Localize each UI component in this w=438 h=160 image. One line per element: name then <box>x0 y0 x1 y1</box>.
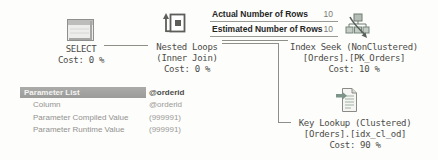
result-window-icon[interactable] <box>66 18 95 47</box>
nested-loops-cost: Cost: 0 % <box>137 64 237 75</box>
key-lookup-cost: Cost: 90 % <box>285 140 425 151</box>
index-seek-name: Index Seek (NonClustered) <box>284 42 424 53</box>
key-lookup-name: Key Lookup (Clustered) <box>285 118 425 129</box>
tooltip-separator <box>210 36 338 37</box>
tooltip-row-value: 10 <box>303 8 333 20</box>
parameter-row-label: Column <box>33 99 61 110</box>
tooltip-row-label: Actual Number of Rows <box>212 8 308 20</box>
edge-nestedloops-indexseek <box>222 40 288 41</box>
tooltip-row-value: 10 <box>303 23 333 35</box>
nested-loops-subtype: (Inner Join) <box>137 53 237 64</box>
parameter-row-value: (999991) <box>149 124 181 135</box>
parameter-list-header-value: @orderid <box>149 87 184 98</box>
index-seek-node[interactable]: Index Seek (NonClustered) [Orders].[PK_O… <box>284 42 424 75</box>
parameter-list-header-label: Parameter List <box>24 87 80 98</box>
nested-loops-node[interactable]: Nested Loops (Inner Join) Cost: 0 % <box>137 42 237 75</box>
select-node-cost: Cost: 0 % <box>40 55 122 66</box>
index-seek-cost: Cost: 10 % <box>284 64 424 75</box>
execution-plan-canvas: SELECT Cost: 0 % Nested Loops (Inner Joi… <box>0 0 438 160</box>
nested-loops-icon[interactable] <box>162 11 188 41</box>
key-lookup-node[interactable]: Key Lookup (Clustered) [Orders].[idx_cl_… <box>285 118 425 151</box>
key-lookup-icon[interactable] <box>336 86 360 119</box>
key-lookup-object: [Orders].[idx_cl_od] <box>285 129 425 140</box>
edge-nestedloops-keylookup-v <box>278 43 279 122</box>
parameter-row-value: @orderid <box>149 99 182 110</box>
index-seek-object: [Orders].[PK_Orders] <box>284 53 424 64</box>
select-node[interactable]: SELECT Cost: 0 % <box>40 44 122 66</box>
parameter-row-label: Parameter Runtime Value <box>33 124 124 135</box>
parameter-row-label: Parameter Compiled Value <box>33 112 128 123</box>
tooltip-separator <box>210 21 338 22</box>
select-node-name: SELECT <box>40 44 122 55</box>
parameter-row-value: (999991) <box>149 112 181 123</box>
index-seek-icon[interactable] <box>344 12 370 43</box>
nested-loops-name: Nested Loops <box>137 42 237 53</box>
